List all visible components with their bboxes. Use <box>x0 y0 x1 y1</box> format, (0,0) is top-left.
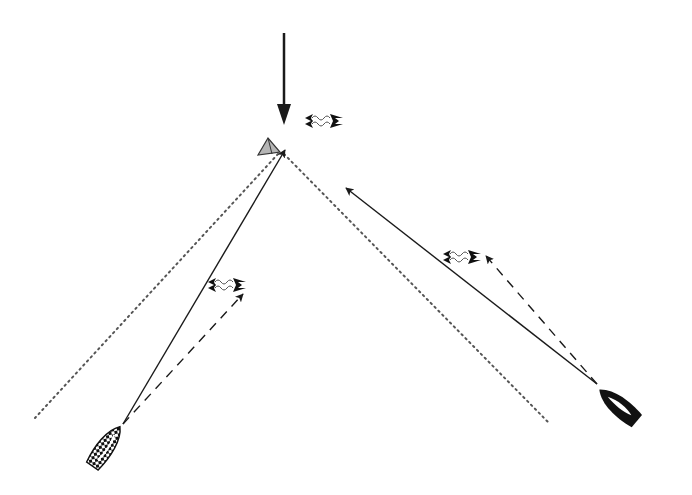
wind-shift-icon-left <box>208 278 246 292</box>
wind-arrow-icon <box>277 33 291 125</box>
sailing-diagram <box>0 0 692 495</box>
port-layline <box>35 154 278 418</box>
checkered-boat-heading-lifted <box>123 294 243 424</box>
checkered-boat-course <box>123 150 285 424</box>
black-boat-heading-lifted <box>486 256 597 384</box>
mark-buoy-icon <box>258 138 280 155</box>
starboard-layline <box>284 154 548 422</box>
wind-shift-icon-right <box>443 250 481 264</box>
black-boat-icon <box>593 382 643 428</box>
wind-shift-icon-top <box>305 114 343 128</box>
checkered-boat-icon <box>85 422 126 471</box>
black-boat-course <box>346 188 597 384</box>
